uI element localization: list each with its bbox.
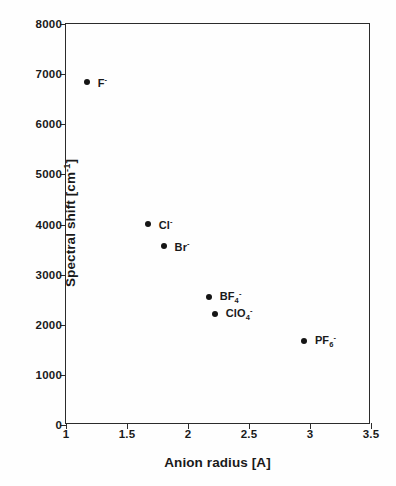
data-point-pf6minus[interactable] (301, 338, 307, 344)
data-point-label-bf4minus: BF4- (220, 288, 242, 305)
x-axis-tick-label: 3 (307, 428, 314, 440)
data-point-label-clminus: Cl- (159, 217, 173, 231)
y-axis-tick-label: 6000 (36, 118, 62, 130)
y-axis-tick-label: 5000 (36, 168, 62, 180)
y-axis-tick-label: 2000 (36, 319, 62, 331)
x-axis-tick-label: 1 (63, 428, 70, 440)
y-axis-tick-label: 1000 (36, 369, 62, 381)
label-subscript: 6 (329, 340, 333, 349)
data-point-brminus[interactable] (161, 243, 167, 249)
y-axis-tick-label: 7000 (36, 68, 62, 80)
data-point-label-fminus: F- (98, 75, 107, 89)
x-axis-title: Anion radius [A] (65, 455, 370, 470)
label-base: ClO (226, 307, 246, 319)
x-axis-tick-label: 2 (185, 428, 192, 440)
label-base: PF (315, 334, 329, 346)
y-axis-tick-label: 8000 (36, 18, 62, 30)
scatter-chart-figure: Spectral shift [cm-1] Anion radius [A] 0… (0, 0, 396, 486)
data-point-clo4minus[interactable] (212, 311, 218, 317)
data-point-fminus[interactable] (84, 79, 90, 85)
label-charge: - (239, 288, 242, 297)
label-base: Br (175, 241, 187, 253)
label-charge: - (250, 305, 253, 314)
label-charge: - (187, 239, 190, 248)
label-subscript: 4 (235, 296, 239, 305)
data-point-bf4minus[interactable] (206, 294, 212, 300)
plot-area: 01000200030004000500060007000800011.522.… (65, 23, 370, 424)
label-charge: - (170, 217, 173, 226)
data-point-label-brminus: Br- (175, 239, 190, 253)
label-charge: - (105, 75, 108, 84)
y-axis-tick-label: 3000 (36, 269, 62, 281)
data-point-label-pf6minus: PF6- (315, 332, 336, 349)
x-axis-tick-label: 3.5 (363, 428, 380, 440)
label-base: Cl (159, 219, 170, 231)
data-point-clminus[interactable] (145, 221, 151, 227)
label-subscript: 4 (246, 313, 250, 322)
y-axis-tick-label: 4000 (36, 219, 62, 231)
y-axis-tick-label: 0 (55, 419, 62, 431)
x-axis-tick-label: 1.5 (119, 428, 136, 440)
x-axis-tick-label: 2.5 (241, 428, 258, 440)
data-point-label-clo4minus: ClO4- (226, 305, 253, 322)
label-charge: - (333, 332, 336, 341)
label-base: BF (220, 290, 235, 302)
label-base: F (98, 77, 105, 89)
